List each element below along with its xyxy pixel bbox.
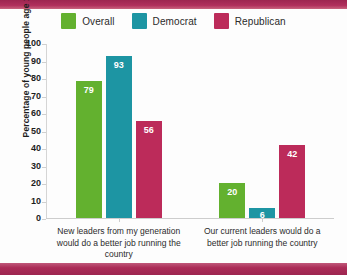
y-tick-label: 100 [26,38,41,48]
y-tick-mark [42,62,46,63]
y-tick-mark [42,149,46,150]
bar-value-label: 42 [279,149,305,159]
y-tick-mark [42,79,46,80]
y-tick-label: 30 [31,161,41,171]
bar-value-label: 79 [76,85,102,95]
legend-swatch-icon [214,13,229,29]
bar-overall-group1[interactable]: 79 [76,81,102,218]
y-tick-label: 10 [31,196,41,206]
y-tick-label: 90 [31,56,41,66]
y-tick-mark [42,167,46,168]
bottom-decorative-band [0,263,347,275]
y-tick-label: 20 [31,178,41,188]
y-tick-label: 80 [31,73,41,83]
y-tick-label: 50 [31,126,41,136]
legend-item-democrat[interactable]: Democrat [132,13,197,29]
bar-overall-group2[interactable]: 20 [219,183,245,218]
y-tick-label: 60 [31,108,41,118]
legend-item-overall[interactable]: Overall [61,13,114,29]
bar-group-1: 799356 [47,44,191,218]
x-tick-mark [262,218,263,222]
bar-value-label: 20 [219,187,245,197]
bar-value-label: 56 [136,125,162,135]
legend-item-label: Democrat [153,16,197,27]
y-tick-label: 0 [36,213,41,223]
y-tick-mark [42,97,46,98]
category-label-1: New leaders from my generation would do … [47,226,191,261]
y-tick-label: 40 [31,143,41,153]
y-axis-title: Percentage of young people age 15 to 34 [21,0,31,142]
category-labels: New leaders from my generation would do … [47,226,334,261]
bar-groups: 79935620642 [47,44,334,218]
bar-republican-group1[interactable]: 56 [136,121,162,218]
bar-democrat-group2[interactable]: 6 [249,208,275,218]
y-tick-mark [42,202,46,203]
bar-republican-group2[interactable]: 42 [279,145,305,218]
bar-value-label: 93 [106,60,132,70]
bar-group-2: 20642 [191,44,335,218]
plot-area: 0102030405060708090100 79935620642 [46,44,334,219]
legend-swatch-icon [61,13,76,29]
y-tick-mark [42,44,46,45]
chart-legend: OverallDemocratRepublican [0,13,347,29]
y-tick-mark [42,114,46,115]
y-tick-mark [42,132,46,133]
y-tick-mark [42,184,46,185]
legend-item-label: Republican [235,16,286,27]
legend-item-republican[interactable]: Republican [214,13,286,29]
y-tick-label: 70 [31,91,41,101]
y-tick-mark [42,219,46,220]
bar-democrat-group1[interactable]: 93 [106,56,132,218]
top-decorative-band [0,0,347,9]
category-label-2: Our current leaders would do a better jo… [191,226,335,261]
legend-swatch-icon [132,13,147,29]
chart-page: OverallDemocratRepublican Percentage of … [0,0,347,275]
x-tick-mark [119,218,120,222]
legend-item-label: Overall [82,16,114,27]
